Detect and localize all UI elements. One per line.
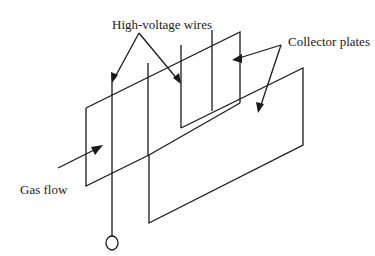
wires-pointer-arrows: [111, 33, 181, 84]
voltage-terminal-icon: [106, 236, 118, 250]
high-voltage-wires-label: High-voltage wires: [112, 17, 212, 32]
back-collector-plate: [149, 68, 303, 223]
front-collector-plate: [86, 32, 240, 186]
plate-edge: [149, 103, 240, 155]
gas-flow-label: Gas flow: [20, 182, 68, 197]
collector-plates-label: Collector plates: [288, 34, 370, 49]
gas-flow-arrow: [58, 145, 103, 168]
precipitator-diagram: High-voltage wires Collector plates Gas …: [0, 0, 375, 256]
